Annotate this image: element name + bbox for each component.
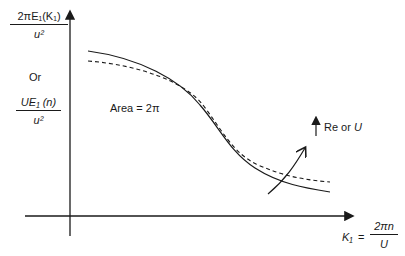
x-label-lhs: K₁ <box>342 232 353 243</box>
trend-label-prefix: Re or <box>324 121 354 133</box>
y-label-bottom-denominator: u² <box>16 111 61 126</box>
solid-curve <box>88 51 330 192</box>
y-label-or: Or <box>29 72 41 83</box>
y-label-bottom-numerator: UE₁ (n) <box>16 96 61 110</box>
y-label-bottom: UE₁ (n) u² <box>16 96 61 126</box>
x-label-rhs: 2πn U <box>370 220 398 250</box>
area-label: Area = 2π <box>110 103 159 114</box>
x-label-equals: = <box>358 232 364 243</box>
dashed-curve <box>88 61 330 182</box>
y-label-top-denominator: u² <box>32 25 46 40</box>
trend-label-var: U <box>354 121 362 133</box>
x-label-rhs-denominator: U <box>370 235 398 250</box>
x-label-rhs-numerator: 2πn <box>370 220 398 234</box>
y-label-top-numerator: 2πE₁(K₁) <box>10 10 68 24</box>
trend-label: Re or U <box>324 122 362 133</box>
y-label-top: 2πE₁(K₁) u² <box>10 10 68 40</box>
